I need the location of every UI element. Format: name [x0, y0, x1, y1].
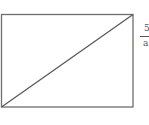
fraction-denominator: a	[143, 39, 148, 48]
diagram-canvas	[0, 0, 149, 125]
fraction-bar	[140, 36, 149, 37]
rectangle-diagonal-diagram: 5 a	[0, 0, 149, 125]
diagonal-line	[2, 15, 134, 108]
fraction-label: 5 a	[140, 24, 149, 52]
fraction-numerator: 5	[144, 24, 149, 33]
